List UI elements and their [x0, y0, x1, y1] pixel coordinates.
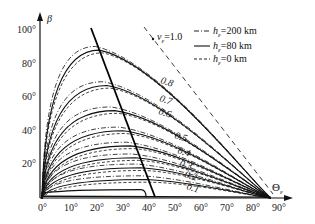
- legend-label-200km: hε=200 km: [213, 25, 257, 39]
- x-tick-label: 20°: [90, 202, 104, 213]
- x-axis-arrow-icon: [284, 195, 293, 201]
- x-tick-label: 0°: [38, 202, 47, 213]
- y-tick-labels: 20°40°60°80°100°: [17, 24, 36, 169]
- y-axis-arrow-icon: [37, 12, 43, 21]
- curve-baseline: [42, 196, 271, 197]
- legend-label-80km: hε=80 km: [213, 40, 252, 54]
- x-tick-label: 10°: [64, 202, 78, 213]
- x-axis-title: Θε: [272, 181, 283, 196]
- curve-label: 0.5: [173, 129, 188, 143]
- curve-200km: [42, 127, 271, 198]
- legend: hε=200 km hε=80 km hε=0 km: [194, 25, 257, 67]
- x-tick-label: 70°: [220, 202, 234, 213]
- legend-label-0km: hε=0 km: [213, 53, 247, 67]
- curve-label: 0.6: [157, 105, 172, 119]
- curve-label: 0.4: [176, 144, 191, 158]
- v1-label: vε=1.0: [157, 31, 182, 45]
- curve-label: 0.1: [185, 180, 200, 194]
- x-tick-label: 30°: [116, 202, 130, 213]
- y-tick-label: 80°: [22, 58, 36, 69]
- x-tick-labels: 0°10°20°30°40°50°60°70°80°90°: [38, 202, 286, 213]
- v1-marker-icon: [152, 38, 154, 40]
- y-tick-label: 40°: [22, 125, 36, 136]
- x-tick-label: 90°: [272, 202, 286, 213]
- curve-200km: [42, 46, 271, 198]
- y-tick-label: 100°: [17, 24, 36, 35]
- x-tick-label: 40°: [142, 202, 156, 213]
- y-tick-label: 60°: [22, 91, 36, 102]
- x-tick-label: 50°: [168, 202, 182, 213]
- y-tick-label: 20°: [22, 158, 36, 169]
- x-tick-label: 80°: [246, 202, 260, 213]
- curves: [42, 46, 271, 198]
- y-axis-title: β: [46, 13, 52, 24]
- x-tick-label: 60°: [194, 202, 208, 213]
- chart: 0°10°20°30°40°50°60°70°80°90° 20°40°60°8…: [0, 0, 315, 224]
- curve-80km: [42, 85, 271, 198]
- locus-line: [91, 28, 155, 197]
